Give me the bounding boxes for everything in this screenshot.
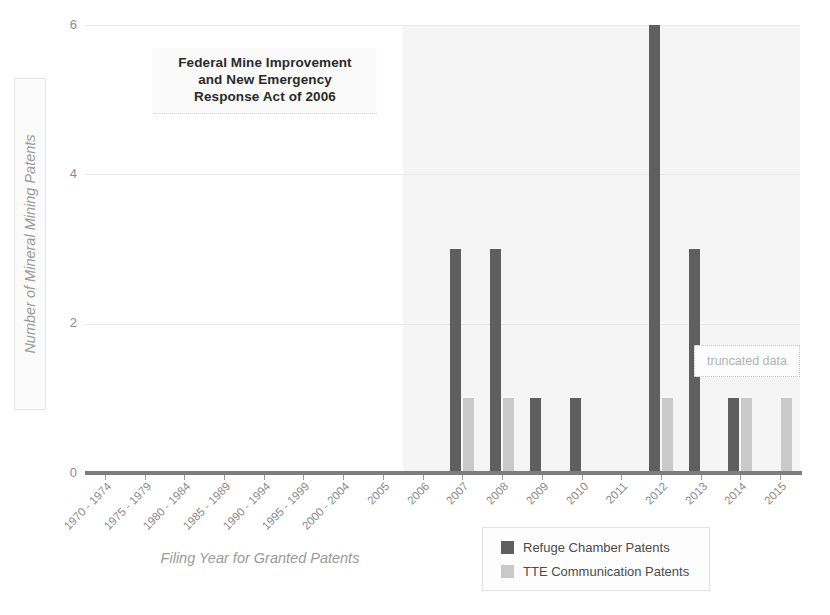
bar-2007-tte-communication <box>463 398 474 473</box>
annotation-act-title: Federal Mine Improvement and New Emergen… <box>153 48 377 114</box>
bar-2008-tte-communication <box>503 398 514 473</box>
legend-item-refuge-chamber[interactable]: Refuge Chamber Patents <box>483 535 709 559</box>
x-tick-2011 <box>621 475 622 480</box>
x-tick-2007 <box>462 475 463 480</box>
truncated-data-label: truncated data <box>707 354 787 368</box>
act-title-line-2: and New Emergency <box>157 71 373 88</box>
x-axis-line <box>85 471 802 475</box>
y-tick-label-4: 4 <box>53 166 77 181</box>
bar-2009-refuge-chamber <box>530 398 541 473</box>
x-tick-2000-2004 <box>343 475 344 480</box>
chart-legend: Refuge Chamber Patents TTE Communication… <box>482 527 710 591</box>
legend-label-tte-communication: TTE Communication Patents <box>523 564 689 579</box>
x-tick-1980-1984 <box>184 475 185 480</box>
bar-2008-refuge-chamber <box>490 249 501 473</box>
bar-2014-refuge-chamber <box>728 398 739 473</box>
y-tick-label-6: 6 <box>53 17 77 32</box>
act-title-line-1: Federal Mine Improvement <box>157 54 373 71</box>
bar-2015-tte-communication <box>781 398 792 473</box>
legend-label-refuge-chamber: Refuge Chamber Patents <box>523 540 670 555</box>
chart-figure: 6 4 2 0 1970 - 19741975 - 19791980 - 198… <box>0 0 830 615</box>
y-tick-label-0: 0 <box>53 465 77 480</box>
bar-2010-refuge-chamber <box>570 398 581 473</box>
bar-2012-refuge-chamber <box>649 25 660 473</box>
x-tick-2014 <box>740 475 741 480</box>
legend-swatch-refuge-chamber <box>501 541 514 554</box>
bar-2014-tte-communication <box>741 398 752 473</box>
x-tick-1995-1999 <box>303 475 304 480</box>
y-axis-title: Number of Mineral Mining Patents <box>22 134 38 353</box>
legend-item-tte-communication[interactable]: TTE Communication Patents <box>483 559 709 583</box>
act-title-line-3: Response Act of 2006 <box>157 88 373 105</box>
y-axis-title-box: Number of Mineral Mining Patents <box>14 78 46 410</box>
y-tick-label-2: 2 <box>53 315 77 330</box>
annotation-truncated-data: truncated data <box>694 345 800 377</box>
bar-2012-tte-communication <box>662 398 673 473</box>
y-axis-tick-labels: 6 4 2 0 <box>47 25 77 473</box>
x-axis-title: Filing Year for Granted Patents <box>120 550 400 566</box>
bar-2007-refuge-chamber <box>450 249 461 473</box>
legend-swatch-tte-communication <box>501 565 514 578</box>
x-tick-2015 <box>780 475 781 480</box>
